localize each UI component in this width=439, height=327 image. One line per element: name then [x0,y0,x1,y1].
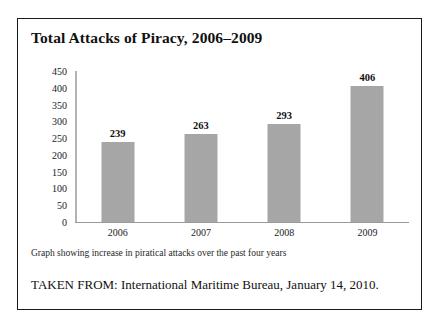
y-axis: 050100150200250300350400450 [31,71,71,223]
x-axis: 2006200720082009 [76,227,409,243]
y-axis-tick-label: 200 [52,149,67,160]
bar-value-label: 406 [360,72,376,83]
chart-title: Total Attacks of Piracy, 2006–2009 [31,29,262,47]
y-axis-tick-label: 100 [52,183,67,194]
figure-caption: Graph showing increase in piratical atta… [31,248,286,258]
bar-group: 293 [243,71,326,222]
figure-source: TAKEN FROM: International Maritime Burea… [31,277,379,293]
bar [184,134,217,222]
bar-group: 263 [159,71,242,222]
bar-value-label: 263 [193,120,209,131]
y-axis-tick-label: 150 [52,166,67,177]
bar-series: 239263293406 [76,71,409,222]
y-axis-tick-label: 400 [52,82,67,93]
bar [351,86,384,222]
y-axis-tick-label: 450 [52,66,67,77]
chart-plot-area: 050100150200250300350400450 239263293406… [31,71,409,239]
x-axis-tick-label: 2007 [159,227,242,238]
bar-value-label: 293 [276,110,292,121]
x-axis-tick-label: 2009 [326,227,409,238]
x-axis-tick-label: 2006 [76,227,159,238]
y-axis-tick-label: 0 [62,217,67,228]
figure-container: Total Attacks of Piracy, 2006–2009 05010… [17,18,422,310]
y-axis-tick-label: 250 [52,133,67,144]
y-axis-tick-label: 300 [52,116,67,127]
bar [101,142,134,222]
x-axis-tick-label: 2008 [243,227,326,238]
bar-group: 239 [76,71,159,222]
bar-group: 406 [326,71,409,222]
bar-value-label: 239 [110,128,126,139]
bar [268,124,301,222]
y-axis-tick-label: 50 [57,200,67,211]
y-axis-tick-label: 350 [52,99,67,110]
